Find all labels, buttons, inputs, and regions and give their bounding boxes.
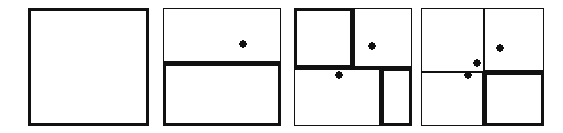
data-point-marker-point-c — [473, 59, 480, 66]
diagram-background — [0, 0, 563, 133]
subdivision-sequence-diagram — [0, 0, 563, 133]
data-point-marker-point-b — [335, 71, 342, 78]
data-point-marker-point-a — [496, 44, 503, 51]
data-point-marker-point-a — [239, 40, 246, 47]
figure-root — [0, 0, 563, 133]
data-point-marker-point-a — [368, 42, 375, 49]
data-point-marker-point-b — [464, 71, 471, 78]
